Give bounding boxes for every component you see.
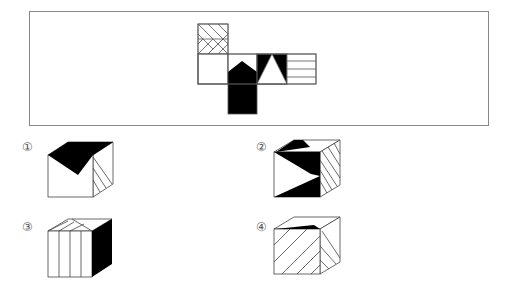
net-face-triangle (257, 54, 287, 84)
option-1[interactable]: ① (22, 140, 113, 197)
option-4[interactable]: ④ (256, 217, 340, 274)
cube-net (198, 24, 316, 114)
option-2[interactable]: ② (256, 140, 340, 197)
option-label-1: ① (22, 140, 33, 154)
net-face-lines (287, 54, 316, 84)
puzzle-canvas: ① ② ③ (0, 0, 513, 300)
option-label-2: ② (256, 140, 267, 154)
option-label-3: ③ (22, 220, 33, 234)
option-3[interactable]: ③ (22, 219, 112, 277)
option-label-4: ④ (256, 220, 267, 234)
net-face-blank (198, 54, 228, 84)
